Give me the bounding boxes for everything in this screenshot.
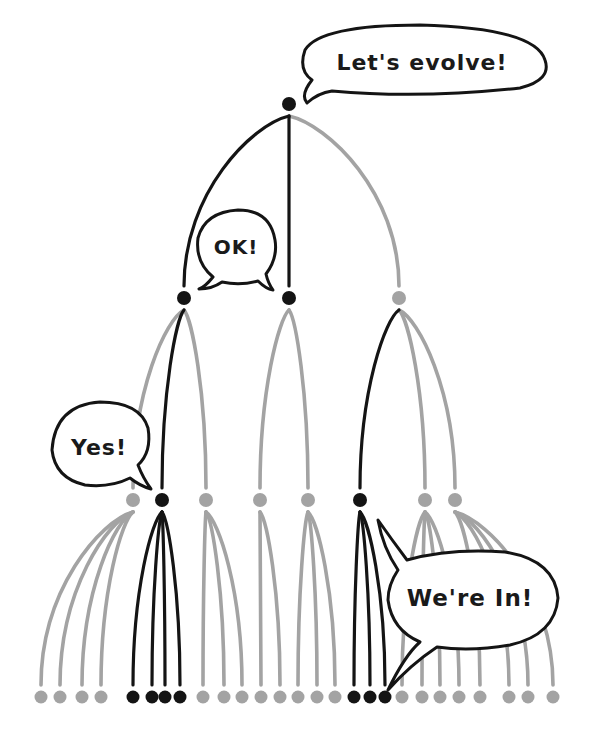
unselected-tree-node [126, 493, 140, 507]
unselected-tree-node [95, 691, 108, 704]
selected-branch-edge [152, 512, 162, 685]
selected-tree-node [282, 291, 296, 305]
evolution-tree-diagram: Let's evolve! OK! Yes! We're In! [0, 0, 594, 744]
unselected-tree-node [503, 691, 516, 704]
unselected-tree-node [453, 691, 466, 704]
selected-tree-node [159, 691, 172, 704]
selected-tree-node [174, 691, 187, 704]
speech-bubble-level2-text: Yes! [70, 435, 127, 460]
unselected-tree-node [392, 291, 406, 305]
unselected-tree-node [396, 691, 409, 704]
selected-tree-node [348, 691, 361, 704]
selected-tree-node [127, 691, 140, 704]
selected-tree-node [146, 691, 159, 704]
speech-bubble-level2: Yes! [52, 402, 151, 489]
unselected-branch-edge [399, 310, 455, 488]
unselected-tree-node [274, 691, 287, 704]
unselected-branch-edge [260, 512, 280, 685]
unselected-tree-node [329, 691, 342, 704]
unselected-tree-node [35, 691, 48, 704]
unselected-tree-node [522, 691, 535, 704]
selected-tree-node [364, 691, 377, 704]
unselected-tree-node [255, 691, 268, 704]
speech-bubble-level1-text: OK! [214, 235, 259, 259]
unselected-tree-node [301, 493, 315, 507]
selected-tree-node [155, 493, 169, 507]
unselected-branch-edge [184, 310, 206, 488]
selected-tree-node [177, 291, 191, 305]
unselected-tree-node [448, 493, 462, 507]
unselected-tree-node [418, 493, 432, 507]
unselected-tree-node [253, 493, 267, 507]
selected-branch-edge [162, 512, 165, 685]
selected-branch-edge [354, 512, 360, 685]
unselected-branch-edge [203, 512, 206, 685]
unselected-branch-edge [260, 512, 261, 685]
unselected-tree-node [416, 691, 429, 704]
speech-bubble-root-text: Let's evolve! [336, 50, 507, 75]
selected-tree-node [379, 691, 392, 704]
unselected-tree-node [76, 691, 89, 704]
unselected-branch-edge [289, 310, 308, 488]
unselected-tree-node [199, 493, 213, 507]
unselected-tree-node [292, 691, 305, 704]
selected-tree-node [282, 97, 296, 111]
speech-bubble-level3-text: We're In! [407, 585, 534, 611]
speech-bubble-root: Let's evolve! [303, 25, 547, 103]
unselected-tree-node [474, 691, 487, 704]
unselected-tree-node [236, 691, 249, 704]
unselected-tree-node [434, 691, 447, 704]
unselected-tree-node [197, 691, 210, 704]
unselected-branch-edge [289, 116, 399, 286]
selected-branch-edge [360, 310, 399, 488]
unselected-branch-edge [260, 310, 289, 488]
unselected-tree-node [311, 691, 324, 704]
selected-tree-node [353, 493, 367, 507]
unselected-tree-node [218, 691, 231, 704]
speech-bubble-level1: OK! [198, 210, 276, 290]
unselected-tree-node [54, 691, 67, 704]
unselected-branch-edge [308, 512, 317, 685]
unselected-tree-node [547, 691, 560, 704]
unselected-branch-edge [298, 512, 308, 685]
